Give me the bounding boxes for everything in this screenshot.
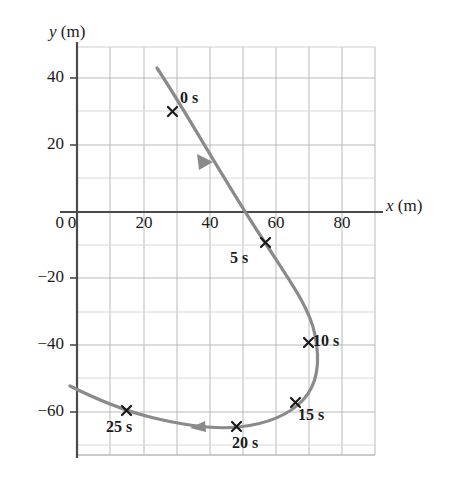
trajectory-plot-figure: y (m) x (m) 40 20 0 −20 −40 −60 0 20 40 …	[0, 0, 451, 490]
x-axis-title: x (m)	[386, 196, 422, 216]
y-tick-label-minus-60: −60	[14, 401, 64, 421]
y-axis-variable: y	[49, 22, 57, 41]
axis-lines	[60, 42, 383, 458]
annotation-5s: 5 s	[230, 249, 248, 267]
plot-canvas	[0, 0, 451, 490]
x-tick-label-20: 20	[131, 213, 157, 233]
annotation-0s: 0 s	[180, 89, 198, 107]
y-tick-label-0: 0	[22, 213, 64, 233]
x-axis-unit: (m)	[398, 196, 423, 215]
annotation-10s: 10 s	[313, 332, 339, 350]
y-tick-label-minus-20: −20	[14, 267, 64, 287]
x-tick-label-80: 80	[329, 213, 355, 233]
y-axis-unit: (m)	[61, 22, 86, 41]
grid-lines	[77, 47, 375, 455]
x-tick-label-60: 60	[263, 213, 289, 233]
x-tick-label-0: 0	[61, 213, 83, 233]
annotation-20s: 20 s	[232, 434, 258, 452]
x-tick-label-40: 40	[197, 213, 223, 233]
trajectory-curve	[70, 68, 318, 428]
y-tick-label-20: 20	[22, 134, 64, 154]
x-axis-variable: x	[386, 196, 394, 215]
y-tick-label-40: 40	[22, 67, 64, 87]
y-axis-title: y (m)	[49, 22, 85, 42]
annotation-25s: 25 s	[106, 418, 132, 436]
annotation-15s: 15 s	[298, 406, 324, 424]
data-point-markers	[122, 107, 313, 431]
y-tick-label-minus-40: −40	[14, 334, 64, 354]
